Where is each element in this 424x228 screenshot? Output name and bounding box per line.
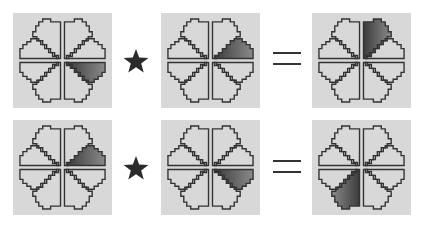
flower-icon [161,13,260,108]
flower-icon [161,120,260,215]
row2-left-flower [13,120,112,215]
flower-icon [312,13,411,108]
equals-sign-icon [273,160,301,174]
flower-icon [312,120,411,215]
petal-top-left [181,126,209,166]
petal-top-left [33,19,61,59]
petal-top-left [181,19,209,59]
row1-right-flower [161,13,260,108]
petal-right-upper-shaded [214,39,253,59]
star-operator-icon [123,156,149,180]
petal-top-left [33,126,61,166]
equals-sign-icon [273,52,301,66]
petal-bottom-right [363,169,391,209]
row2-right-flower [161,120,260,215]
row1-result-flower [312,13,411,108]
row2-result-flower [312,120,411,215]
petal-bottom-right [212,62,240,102]
petal-bottom-right [363,62,391,102]
star-operator-icon [123,49,149,73]
row1-left-flower [13,13,112,108]
petal-right-upper-shaded [66,146,105,166]
petal-top-left [332,19,360,59]
flower-icon [13,120,112,215]
petal-top-left [332,126,360,166]
petal-bottom-right [64,169,92,209]
flower-icon [13,13,112,108]
